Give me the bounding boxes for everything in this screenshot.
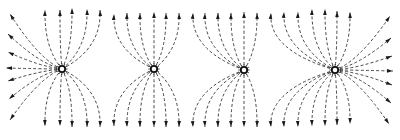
arrowhead-icon — [99, 121, 103, 127]
field-line — [284, 70, 335, 127]
arrowhead-icon — [152, 12, 156, 18]
field-line — [231, 13, 244, 70]
field-line — [62, 69, 87, 127]
arrowhead-icon — [310, 120, 314, 126]
field-line — [62, 69, 72, 127]
arrowhead-icon — [164, 121, 168, 127]
arrowhead-icon — [138, 121, 142, 127]
arrowhead-icon — [85, 121, 89, 127]
arrowhead-icon — [282, 12, 286, 18]
arrowhead-icon — [85, 9, 89, 15]
field-line — [62, 9, 87, 69]
field-line — [244, 13, 257, 70]
field-line — [62, 8, 72, 69]
field-line — [154, 13, 166, 69]
arrowhead-icon — [58, 120, 62, 126]
arrowhead-icon — [58, 10, 62, 16]
field-line — [140, 13, 154, 69]
charge-icon — [59, 66, 65, 72]
field-line — [193, 70, 244, 127]
arrowhead-icon — [164, 13, 168, 19]
arrowhead-icon — [242, 121, 246, 127]
field-line — [8, 34, 62, 69]
charge-icon — [332, 67, 338, 73]
arrowhead-icon — [335, 11, 339, 17]
charge-2 — [148, 63, 159, 74]
charge-icon — [241, 67, 247, 73]
field-line — [154, 69, 179, 127]
charge-3 — [238, 64, 249, 75]
arrowhead-icon — [203, 13, 207, 19]
arrowhead-icon — [255, 121, 259, 127]
arrowhead-icon — [112, 120, 116, 126]
arrowhead-icon — [70, 8, 74, 14]
arrowhead-icon — [229, 13, 233, 19]
arrowhead-icon — [335, 119, 339, 125]
field-line — [154, 69, 166, 127]
charge-icon — [151, 66, 157, 72]
field-line — [298, 70, 335, 127]
arrowhead-icon — [385, 16, 390, 22]
field-line — [271, 70, 335, 127]
field-line — [114, 14, 154, 69]
field-line — [8, 69, 62, 81]
field-line — [154, 13, 179, 69]
arrowhead-icon — [6, 66, 12, 70]
arrowhead-icon — [296, 121, 300, 127]
arrowhead-icon — [348, 12, 352, 18]
field-line — [335, 11, 337, 70]
arrowhead-icon — [43, 120, 47, 126]
field-line — [193, 13, 244, 70]
field-line-diagram — [0, 0, 400, 140]
field-line — [10, 14, 62, 69]
field-line — [218, 13, 244, 70]
field-line — [10, 69, 62, 120]
field-line — [60, 10, 62, 69]
arrowhead-icon — [255, 13, 259, 19]
point-charges — [56, 63, 340, 75]
arrowhead-icon — [282, 121, 286, 127]
arrowhead-icon — [177, 13, 181, 19]
arrowhead-icon — [98, 10, 102, 16]
arrowhead-icon — [386, 56, 392, 60]
arrowhead-icon — [229, 121, 233, 127]
field-line — [271, 13, 335, 70]
arrowhead-icon — [70, 121, 74, 127]
arrowhead-icon — [10, 14, 15, 20]
arrowhead-icon — [269, 13, 273, 19]
arrowhead-icon — [310, 9, 314, 15]
arrowhead-icon — [10, 114, 15, 120]
arrowhead-icon — [152, 121, 156, 127]
arrowhead-icon — [384, 118, 389, 124]
field-line — [60, 69, 62, 126]
field-line — [335, 70, 393, 71]
field-line — [127, 13, 154, 69]
arrowhead-icon — [216, 121, 220, 127]
arrowhead-icon — [323, 120, 327, 126]
arrowhead-icon — [9, 94, 15, 99]
arrowhead-icon — [191, 13, 195, 19]
arrowhead-icon — [323, 9, 327, 15]
arrowhead-icon — [138, 13, 142, 19]
field-line — [6, 68, 62, 69]
field-line — [62, 69, 100, 127]
field-line — [244, 70, 257, 127]
field-line — [335, 70, 350, 124]
arrowhead-icon — [43, 10, 47, 16]
field-line — [218, 70, 244, 127]
arrowhead-icon — [242, 12, 246, 18]
arrowhead-icon — [112, 14, 116, 20]
field-line — [140, 69, 154, 127]
arrowhead-icon — [125, 121, 129, 127]
arrowhead-icon — [387, 69, 393, 73]
field-line — [335, 16, 390, 70]
field-line — [298, 12, 335, 70]
arrowhead-icon — [386, 81, 392, 85]
field-line — [335, 70, 389, 124]
field-line — [231, 70, 244, 127]
arrowhead-icon — [216, 13, 220, 19]
arrowhead-icon — [296, 12, 300, 18]
arrowhead-icon — [191, 121, 195, 127]
field-line — [62, 10, 100, 69]
field-line — [8, 52, 62, 69]
